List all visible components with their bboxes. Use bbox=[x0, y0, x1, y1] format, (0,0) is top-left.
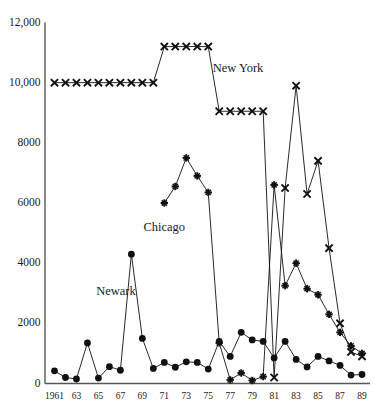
chart-axes bbox=[45, 23, 370, 384]
data-point-plus bbox=[292, 259, 299, 266]
data-point-dot bbox=[348, 372, 355, 379]
data-point-dot bbox=[150, 365, 157, 372]
data-point-plus bbox=[314, 291, 321, 298]
data-point-dot bbox=[205, 366, 212, 373]
data-point-dot bbox=[106, 363, 113, 370]
data-point-plus bbox=[194, 172, 201, 179]
data-point-plus bbox=[281, 282, 288, 289]
data-point-dot bbox=[117, 367, 124, 374]
data-point-dot bbox=[260, 338, 267, 345]
data-point-dot bbox=[62, 374, 69, 381]
data-point-dot bbox=[271, 355, 278, 362]
data-point-dot bbox=[194, 359, 201, 366]
data-point-dot bbox=[73, 376, 80, 383]
data-point-dot bbox=[315, 353, 322, 360]
data-point-dot bbox=[161, 359, 168, 366]
series-annotation-label: Chicago bbox=[143, 221, 185, 234]
x-axis-tick-label: 89 bbox=[342, 392, 376, 402]
y-axis-tick-label: 2000 bbox=[18, 317, 41, 329]
data-point-dot bbox=[128, 251, 135, 258]
data-point-dot bbox=[326, 358, 333, 365]
y-axis-tick-label: 6000 bbox=[18, 197, 41, 209]
data-point-plus bbox=[205, 189, 212, 196]
chart-series-chicago bbox=[161, 154, 366, 384]
data-point-dot bbox=[183, 358, 190, 365]
data-point-dot bbox=[172, 364, 179, 371]
data-point-dot bbox=[84, 339, 91, 346]
data-point-dot bbox=[304, 364, 311, 371]
data-point-dot bbox=[238, 329, 245, 336]
data-point-plus bbox=[347, 342, 354, 349]
data-point-dot bbox=[282, 338, 289, 345]
data-point-plus bbox=[336, 329, 343, 336]
chart-series-new-york bbox=[51, 43, 366, 381]
series-annotation-label: New York bbox=[213, 62, 264, 75]
data-point-dot bbox=[139, 335, 146, 342]
data-point-plus bbox=[161, 199, 168, 206]
y-axis-tick-label: 12,000 bbox=[9, 17, 41, 29]
series-annotation-label: Newark bbox=[96, 285, 136, 298]
data-point-plus bbox=[303, 285, 310, 292]
data-point-dot bbox=[359, 371, 366, 378]
data-point-dot bbox=[51, 367, 58, 374]
data-point-plus bbox=[248, 377, 255, 384]
data-point-dot bbox=[216, 338, 223, 345]
data-point-plus bbox=[259, 373, 266, 380]
data-point-dot bbox=[227, 353, 234, 360]
data-point-plus bbox=[183, 154, 190, 161]
chart-series-newark bbox=[51, 251, 365, 383]
y-axis-tick-label: 4000 bbox=[18, 257, 41, 269]
data-point-plus bbox=[325, 311, 332, 318]
data-point-dot bbox=[337, 362, 344, 369]
data-point-dot bbox=[293, 356, 300, 363]
data-point-plus bbox=[237, 369, 244, 376]
y-axis-tick-label: 0 bbox=[35, 378, 41, 390]
data-point-plus bbox=[270, 181, 277, 188]
data-point-dot bbox=[249, 336, 256, 343]
data-point-plus bbox=[172, 183, 179, 190]
data-point-plus bbox=[227, 376, 234, 383]
data-point-plus bbox=[358, 350, 365, 357]
chart-container: 0200040006000800010,00012,00019616365676… bbox=[0, 0, 376, 419]
y-axis-tick-label: 10,000 bbox=[9, 77, 41, 89]
y-axis-tick-label: 8000 bbox=[18, 137, 41, 149]
chart-plot-area bbox=[0, 0, 376, 419]
data-point-dot bbox=[95, 375, 102, 382]
